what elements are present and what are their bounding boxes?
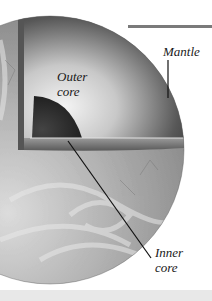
inner-core-text-line1: Inner	[155, 245, 183, 260]
mantle-text: Mantle	[163, 44, 200, 59]
inner-core-label: Inner core	[155, 245, 183, 275]
mantle-label: Mantle	[163, 44, 200, 59]
outer-core-text-line1: Outer	[57, 69, 87, 84]
outer-core-text-line2: core	[57, 84, 87, 99]
outer-core-label: Outer core	[57, 69, 87, 99]
cut-floor	[22, 138, 184, 151]
cut-wall	[18, 0, 24, 150]
top-rule	[128, 25, 212, 28]
inner-core-text-line2: core	[155, 260, 183, 275]
